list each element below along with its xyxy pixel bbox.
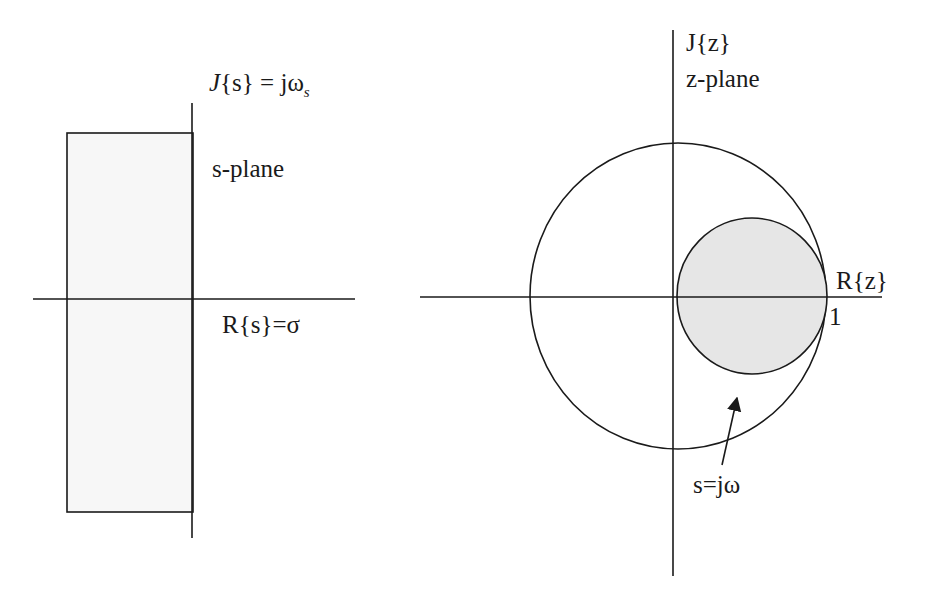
s-plane-strip-region (67, 133, 193, 512)
z-plane-title: z-plane (686, 66, 760, 91)
mapped-image-circle (677, 218, 827, 374)
s-to-z-plane-mapping-diagram (0, 0, 942, 601)
mapping-label: s=jω (693, 472, 740, 497)
s-plane-title: s-plane (212, 156, 284, 181)
imaginary-operator-j: J (209, 69, 220, 96)
s-plane-panel (33, 103, 355, 538)
z-plane-real-axis-label: R{z} (836, 268, 888, 293)
s-plane-imaginary-axis-label: J{s} = jωs (209, 70, 310, 95)
z-plane-panel (420, 30, 882, 576)
mapping-arrow-icon (722, 398, 737, 465)
z-plane-imaginary-axis-label: J{z} (686, 30, 731, 55)
imaginary-axis-expression: {s} = jω (220, 69, 304, 96)
s-plane-real-axis-label: R{s}=σ (222, 312, 300, 337)
sampling-subscript: s (304, 84, 310, 100)
unit-marker-label: 1 (829, 304, 842, 329)
